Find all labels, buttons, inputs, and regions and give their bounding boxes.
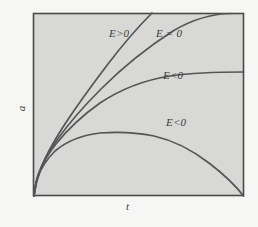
plot-panel-background <box>34 14 244 196</box>
plot-canvas <box>0 0 258 227</box>
figure-container: E>0 E = 0 E<0 E<0 a t <box>0 0 258 227</box>
